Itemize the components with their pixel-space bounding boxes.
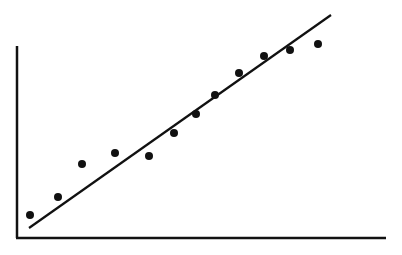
data-point [170,129,178,137]
data-point [78,160,86,168]
data-point [235,69,243,77]
data-point [192,110,200,118]
data-point [211,91,219,99]
regression-line [29,15,331,228]
data-point [286,46,294,54]
trend-line [29,15,331,228]
data-point [54,193,62,201]
data-points [26,40,322,219]
data-point [26,211,34,219]
data-point [145,152,153,160]
data-point [314,40,322,48]
axes [16,46,386,238]
data-point [260,52,268,60]
scatter-chart [0,0,402,255]
data-point [111,149,119,157]
